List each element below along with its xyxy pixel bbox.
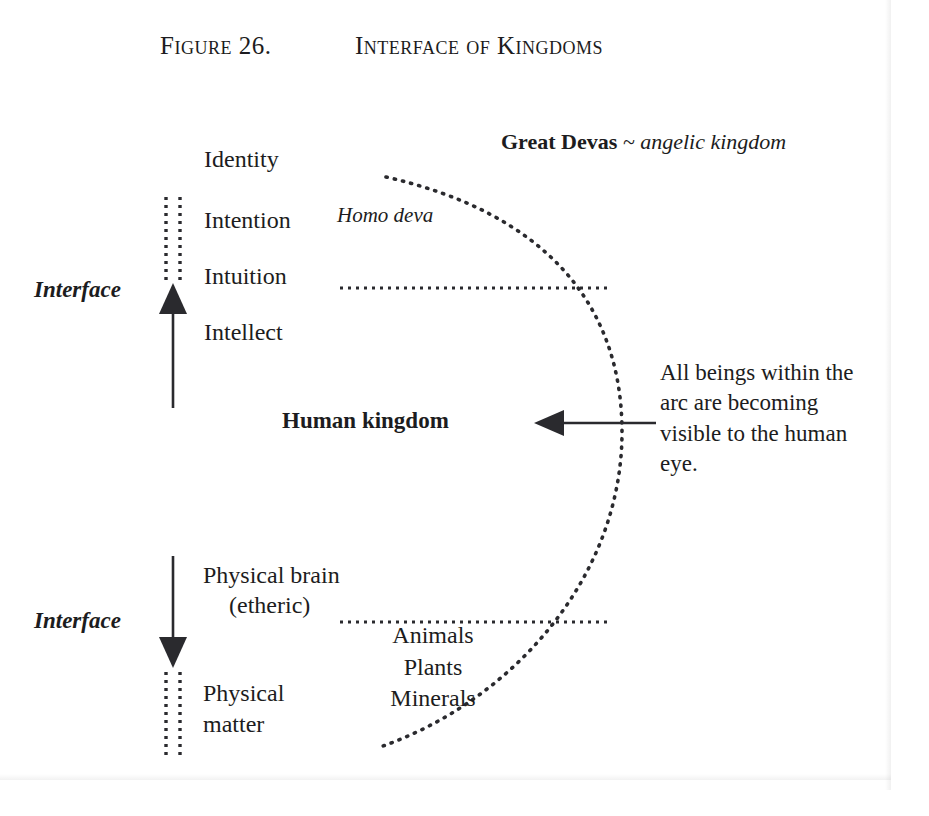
human-kingdom-pointer-head: [534, 410, 564, 436]
species-label-homo-deva: Homo deva: [337, 203, 433, 228]
page-edge-shadow-bottom: [0, 774, 891, 780]
interface-label-upper: Interface: [34, 277, 121, 303]
lower-kingdoms-list: Animals Plants Minerals: [377, 620, 489, 715]
level-label-intention: Intention: [204, 207, 291, 235]
lower-kingdom-minerals: Minerals: [377, 683, 489, 715]
human-kingdom-label: Human kingdom: [282, 408, 449, 434]
figure-number-label: Figure 26.: [160, 32, 271, 60]
level-label-physical-brain: Physical brain: [203, 562, 340, 589]
upward-interface-arrow-head: [159, 283, 187, 314]
figure-page: Figure 26. Interface of Kingdoms Great D…: [0, 0, 929, 816]
lower-kingdom-plants: Plants: [377, 652, 489, 684]
figure-title: Interface of Kingdoms: [355, 32, 603, 60]
level-label-identity: Identity: [204, 146, 279, 174]
level-label-intuition: Intuition: [204, 263, 287, 291]
level-label-physical-matter: Physical matter: [203, 678, 284, 739]
level-label-intellect: Intellect: [204, 319, 283, 347]
lower-kingdom-animals: Animals: [377, 620, 489, 652]
downward-interface-arrow-head: [159, 637, 187, 668]
interface-label-lower: Interface: [34, 608, 121, 634]
page-edge-shadow-right: [885, 0, 891, 790]
great-devas-bold-text: Great Devas: [501, 129, 617, 154]
level-label-etheric: (etheric): [229, 592, 310, 619]
angelic-kingdom-italic-text: ~ angelic kingdom: [623, 129, 786, 154]
page-margin-right: [891, 0, 929, 790]
great-devas-heading: Great Devas ~ angelic kingdom: [501, 129, 786, 155]
arc-annotation-text: All beings within the arc are becoming v…: [660, 358, 880, 479]
